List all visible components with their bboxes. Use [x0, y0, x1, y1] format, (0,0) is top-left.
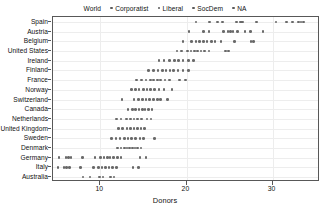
data-point — [136, 127, 139, 130]
legend-label-liberal: Liberal — [163, 5, 184, 12]
legend-item-corporatist[interactable]: Corporatist — [110, 5, 148, 12]
data-point — [208, 21, 211, 24]
data-point — [130, 137, 133, 140]
y-axis-tick — [48, 128, 51, 129]
data-point — [142, 88, 145, 91]
data-point — [143, 127, 146, 130]
data-point — [221, 21, 224, 24]
legend-item-socdem[interactable]: SocDem — [192, 5, 223, 12]
data-point — [121, 98, 124, 101]
y-axis-labels: SpainAustriaBelgiumUnited StatesIrelandF… — [0, 16, 48, 181]
y-axis-tick — [48, 50, 51, 51]
legend-label-na: NA — [237, 5, 246, 12]
x-axis-tick-label: 20 — [182, 185, 190, 192]
data-point — [121, 127, 124, 130]
gridline-horizontal — [53, 70, 318, 71]
legend-label-corporatist: Corporatist — [115, 5, 148, 12]
y-axis-label: Switzerland — [13, 95, 48, 102]
data-point — [127, 108, 130, 111]
y-axis-label: Finland — [26, 66, 48, 73]
data-point — [147, 108, 150, 111]
data-point — [148, 98, 151, 101]
data-point — [103, 156, 106, 159]
y-axis-label: Italy — [36, 163, 48, 170]
gridline-horizontal — [53, 61, 318, 62]
y-axis-label: Germany — [21, 153, 48, 160]
legend-title: World — [83, 5, 101, 12]
y-axis-tick — [48, 60, 51, 61]
data-point — [180, 50, 183, 53]
legend-item-na[interactable]: NA — [232, 5, 246, 12]
data-point — [97, 166, 100, 169]
y-axis-label: Sweden — [24, 134, 48, 141]
y-axis-label: Norway — [25, 85, 48, 92]
data-point — [216, 21, 219, 24]
y-axis-label: Netherlands — [12, 114, 48, 121]
gridline-vertical — [187, 17, 188, 180]
data-point — [190, 40, 193, 43]
chart-legend: World Corporatist Liberal SocDem NA — [0, 2, 330, 14]
x-axis-tick — [99, 181, 100, 185]
data-point — [147, 69, 150, 72]
y-axis-tick — [48, 69, 51, 70]
data-point — [210, 40, 213, 43]
data-point — [214, 40, 217, 43]
y-axis-label: Denmark — [21, 144, 48, 151]
data-point — [127, 137, 130, 140]
data-point — [222, 30, 225, 33]
y-axis-tick — [48, 157, 51, 158]
y-axis-label: France — [27, 76, 48, 83]
data-point — [139, 137, 142, 140]
data-point — [161, 69, 164, 72]
y-axis-label: Spain — [31, 17, 48, 24]
data-point — [198, 40, 201, 43]
data-point — [134, 137, 137, 140]
data-point — [177, 59, 180, 62]
data-point — [233, 40, 236, 43]
data-point — [142, 137, 145, 140]
data-point — [129, 127, 132, 130]
gridline-horizontal — [53, 22, 318, 23]
donors-dotplot-chart: World Corporatist Liberal SocDem NA Spai… — [0, 0, 330, 213]
gridline-horizontal — [53, 119, 318, 120]
data-point — [68, 166, 71, 169]
y-axis-tick — [48, 79, 51, 80]
y-axis-tick — [48, 176, 51, 177]
data-point — [108, 166, 111, 169]
data-point — [187, 69, 190, 72]
data-point — [79, 166, 82, 169]
data-point — [151, 108, 154, 111]
data-point — [152, 69, 155, 72]
x-axis-title: Donors — [0, 196, 330, 205]
data-point — [104, 166, 107, 169]
x-axis-tick-label: 30 — [268, 185, 276, 192]
data-point — [224, 50, 227, 53]
data-point — [193, 50, 196, 53]
legend-marker-icon — [158, 7, 161, 10]
x-axis-tick-labels: 102030 — [0, 185, 330, 195]
x-axis-tick-label: 10 — [95, 185, 103, 192]
y-axis-tick — [48, 137, 51, 138]
y-axis-tick — [48, 147, 51, 148]
data-point — [112, 156, 115, 159]
data-point — [220, 40, 223, 43]
y-axis-label: Belgium — [24, 37, 48, 44]
data-point — [252, 40, 255, 43]
gridline-vertical — [273, 17, 274, 180]
data-point — [302, 21, 305, 24]
y-axis-tick — [48, 118, 51, 119]
data-point — [236, 30, 239, 33]
y-axis-label: Canada — [25, 105, 48, 112]
legend-item-liberal[interactable]: Liberal — [158, 5, 184, 12]
data-point — [134, 108, 137, 111]
data-point — [202, 40, 205, 43]
x-axis-tick — [186, 181, 187, 185]
x-axis-tick — [272, 181, 273, 185]
plot-panel — [52, 16, 319, 181]
data-point — [285, 21, 288, 24]
y-axis-tick — [48, 89, 51, 90]
data-point — [291, 21, 294, 24]
data-point — [141, 98, 144, 101]
y-axis-tick — [48, 40, 51, 41]
y-axis-label: Austria — [27, 27, 48, 34]
